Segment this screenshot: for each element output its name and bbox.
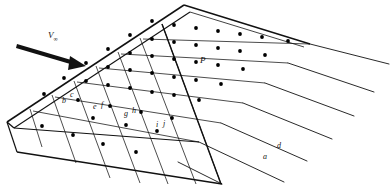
control-point [263,53,267,57]
freestream-velocity-arrow [16,44,86,70]
wake-line-1 [310,44,389,64]
tip-edge [184,5,310,44]
label-wake-d: d [277,142,281,150]
control-point [172,40,176,44]
label-wake-a: a [263,153,267,161]
label-vertex-c: c [70,91,74,99]
control-point [128,68,132,72]
control-point [155,129,159,133]
control-point [106,83,110,87]
control-point [219,82,223,86]
control-point [42,92,46,96]
wake-line-6 [199,142,284,182]
vortex-lattice-figure: V∞ P b c e f g h i j d a [0,0,391,185]
arrow-shaft [16,44,78,66]
control-point-P [194,60,198,64]
label-vertex-g: g [124,110,128,118]
control-point [216,63,220,67]
grid-chord-line-4 [99,68,265,83]
label-vertex-b: b [62,97,66,105]
arrow-head [68,56,86,70]
control-point [150,19,154,23]
control-point [216,29,220,33]
trailing-edge-upper [14,128,199,142]
control-point [238,32,242,36]
control-point [241,67,245,71]
control-point [71,133,75,137]
tip-vortex-boundary [162,24,221,184]
control-point-bc [76,98,80,102]
velocity-subscript: ∞ [54,36,58,42]
control-point [62,76,66,80]
grid-chord-line-2 [55,97,221,123]
control-point [150,71,154,75]
trailing-edge-lower [17,152,222,184]
grid-spanwise-group [30,24,221,184]
wake-line-3 [265,83,354,116]
control-point [128,33,132,37]
grid-chordwise-group [33,39,310,142]
wake-lines-group [178,44,389,184]
control-point [150,90,154,94]
control-point [128,86,132,90]
wake-line-4 [243,103,332,139]
label-vertex-f: f [101,101,103,109]
control-point-ef [108,104,112,108]
label-vertex-h: h [132,107,136,115]
control-point [84,79,88,83]
control-point [91,116,95,120]
control-point [172,23,176,27]
control-point [134,150,138,154]
control-point [286,39,290,43]
control-point [172,75,176,79]
control-point [150,37,154,41]
freestream-velocity-label: V∞ [48,31,58,42]
label-point-P: P [200,56,206,65]
control-point [238,49,242,53]
grid-span-line-1 [30,109,42,147]
diagram-canvas [0,0,391,185]
control-point [260,35,264,39]
control-point [128,51,132,55]
grid-span-line-6 [140,38,196,184]
control-point [40,124,44,128]
control-point [106,47,110,51]
control-point [84,61,88,65]
control-point [194,26,198,30]
control-point [101,142,105,146]
control-point [106,65,110,69]
control-point [197,98,201,102]
control-point [172,57,176,61]
control-point [194,43,198,47]
control-point-ij [170,116,174,120]
label-vertex-j: j [163,120,165,128]
control-point [124,123,128,127]
label-vertex-i: i [156,121,158,129]
control-point [194,78,198,82]
control-point [216,46,220,50]
control-point-gh [139,110,143,114]
control-point [150,54,154,58]
label-vertex-e: e [93,103,97,111]
control-point [172,93,176,97]
grid-span-line-2 [52,95,76,163]
wake-line-2 [288,63,374,92]
